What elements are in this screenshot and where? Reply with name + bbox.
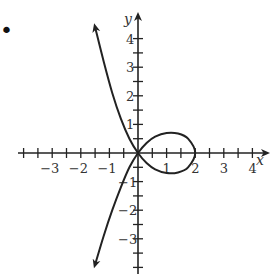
y-axis-label: y [123, 11, 133, 27]
x-tick-label: −1 [97, 161, 116, 176]
graph: • −3−2−112344321−1−2−3xy [0, 0, 279, 274]
y-tick-label: −3 [118, 232, 137, 247]
x-tick-label: −2 [69, 161, 88, 176]
curve [95, 27, 195, 264]
y-tick-label: 2 [126, 89, 134, 104]
curve-path [95, 27, 195, 264]
y-tick-label: 4 [126, 32, 134, 47]
y-tick-label: 3 [126, 60, 134, 75]
x-tick-label: 3 [220, 161, 228, 176]
axes [18, 16, 266, 274]
tick-labels: −3−2−112344321−1−2−3xy [40, 11, 264, 247]
bullet-icon: • [0, 18, 13, 43]
y-tick-label: −2 [118, 203, 137, 218]
x-tick-label: −3 [40, 161, 59, 176]
x-axis-label: x [256, 152, 264, 168]
y-tick-label: 1 [126, 117, 134, 132]
bullet-marker: • [0, 18, 13, 43]
